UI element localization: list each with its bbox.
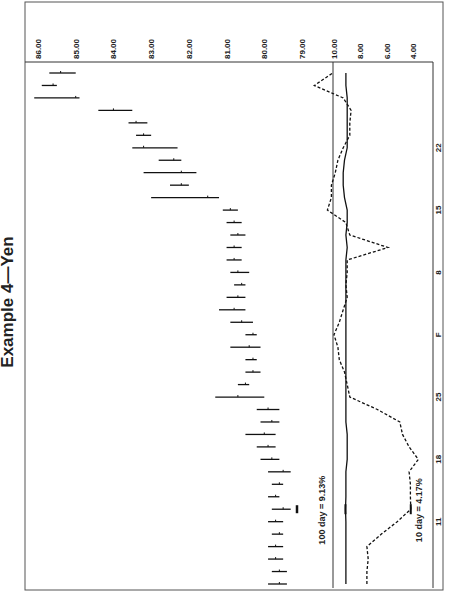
annotation-label: 10 day = 4.17%	[414, 478, 424, 542]
price-tick-label: 82.00	[185, 38, 194, 59]
vol-tick-label: 6.00	[383, 43, 392, 59]
vol-tick-label: 4.00	[409, 43, 418, 59]
price-tick-label: 85.00	[72, 38, 81, 59]
chart: 86.0085.0084.0083.0082.0081.0080.0079.00…	[0, 0, 449, 595]
price-tick-label: 79.00	[298, 38, 307, 59]
series-10-day-line	[314, 73, 418, 584]
time-tick-label: 8	[434, 270, 443, 275]
price-tick-label: 84.00	[109, 38, 118, 59]
price-tick-label: 81.00	[223, 38, 232, 59]
time-tick-label: 18	[434, 454, 443, 463]
annotation-label: 100 day = 9.13%	[317, 476, 327, 545]
vol-tick-label: 8.00	[356, 43, 365, 59]
vol-tick-label: 10.00	[330, 38, 339, 59]
price-tick-label: 80.00	[260, 38, 269, 59]
outer-frame	[25, 2, 443, 590]
price-tick-label: 83.00	[147, 38, 156, 59]
time-tick-label: 11	[434, 517, 443, 526]
time-tick-label: F	[434, 332, 443, 337]
price-tick-label: 86.00	[34, 38, 43, 59]
time-tick-label: 15	[434, 205, 443, 214]
time-tick-label: 22	[434, 143, 443, 152]
time-tick-label: 25	[434, 392, 443, 401]
